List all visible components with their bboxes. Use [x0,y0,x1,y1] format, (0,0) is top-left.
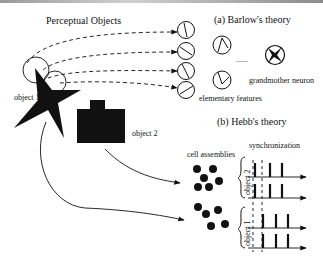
elementary-feature-neurons [178,22,195,99]
synchronization-label: synchronization [249,142,300,150]
diagram-canvas [0,0,323,256]
angle-neurons [213,36,231,89]
cell-assembly-object-2 [193,165,223,191]
group-object-2-label: object 2 [244,169,252,195]
spike-trains [248,160,306,252]
object-2-label: object 2 [132,130,158,138]
grandmother-neuron-label: grandmother neuron [249,77,314,85]
elementary-features-label: elementary features [199,95,262,103]
star-object-1 [14,68,81,138]
ellipsis-label: ...... [236,56,248,64]
group-object-1-label: object 1 [244,220,252,246]
cell-assembly-object-1 [194,203,229,230]
cell-assemblies-label: cell assemblies [187,151,235,159]
barlow-title: (a) Barlow's theory [214,15,291,25]
perceptual-objects-title: Perceptual Objects [46,16,121,26]
block-object-2 [77,100,125,143]
grandmother-neuron-icon [266,46,285,65]
hebb-title: (b) Hebb's theory [217,117,287,127]
arrow-object2-to-assembly [105,149,180,183]
object-1-label: object 1 [14,94,40,102]
dashed-feature-arrows [27,32,177,88]
